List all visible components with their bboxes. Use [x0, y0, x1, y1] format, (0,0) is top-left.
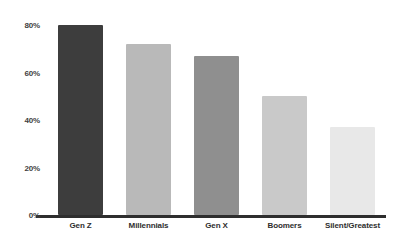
bar-rect	[262, 96, 307, 215]
bar-group: Gen Z	[58, 25, 103, 215]
y-axis-tick-0: 0%	[29, 211, 40, 220]
plot-area: 0%20%40%60%80% Gen ZMillennialsGen XBoom…	[47, 25, 386, 215]
y-axis-tick-60: 60%	[25, 68, 40, 77]
bar-group: Silent/Greatest	[330, 25, 375, 215]
bar-rect	[330, 127, 375, 215]
x-axis-line	[36, 215, 386, 218]
x-axis-category-label: Gen Z	[69, 221, 91, 230]
x-axis-category-label: Millennials	[129, 221, 169, 230]
y-axis-tick-80: 80%	[25, 21, 40, 30]
bar-rect	[58, 25, 103, 215]
y-axis-tick-40: 40%	[25, 116, 40, 125]
bar-group: Boomers	[262, 25, 307, 215]
bar-rect	[126, 44, 171, 215]
x-axis-category-label: Boomers	[268, 221, 302, 230]
bar-chart: 0%20%40%60%80% Gen ZMillennialsGen XBoom…	[0, 0, 417, 247]
bar-rect	[194, 56, 239, 215]
x-axis-category-label: Silent/Greatest	[325, 221, 380, 230]
bar-group: Gen X	[194, 25, 239, 215]
x-axis-category-label: Gen X	[205, 221, 228, 230]
y-axis-tick-20: 20%	[25, 163, 40, 172]
bar-group: Millennials	[126, 25, 171, 215]
